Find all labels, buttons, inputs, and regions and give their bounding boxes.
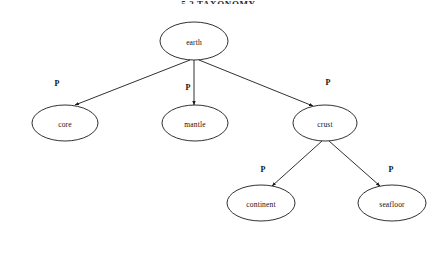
edge-label-crust-to-seafloor: P [389,165,394,174]
tree-node-label-seafloor: seafloor [379,199,404,208]
edge-label-crust-to-continent: P [261,165,266,174]
tree-edge-earth-to-crust [199,60,313,106]
tree-edge-crust-to-seafloor [329,141,380,186]
tree-node-label-earth: earth [186,37,202,46]
tree-node-label-mantle: mantle [184,119,205,128]
nodes-layer [32,22,426,221]
tree-edge-crust-to-continent [272,141,322,186]
taxonomy-tree-diagram [0,0,437,263]
edge-label-earth-to-crust: P [326,78,331,87]
edge-label-earth-to-core: P [55,79,60,88]
tree-node-label-crust: crust [317,119,332,128]
tree-edge-earth-to-core [75,60,190,105]
tree-node-label-continent: continent [246,199,275,208]
tree-node-label-core: core [58,119,72,128]
edge-label-earth-to-mantle: P [186,83,191,92]
